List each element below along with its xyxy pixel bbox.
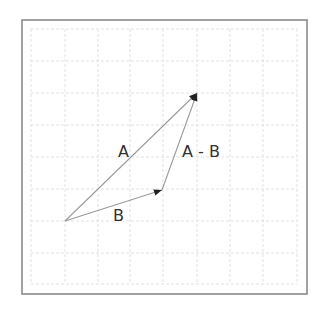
grid [31,29,297,284]
vector-diagram: A A - B B [0,0,325,309]
label-vector-a: A [118,144,129,160]
label-vector-a-minus-b: A - B [182,144,220,160]
diagram-canvas [0,0,325,309]
arrowhead-icon [153,189,162,195]
label-vector-b: B [113,208,124,224]
